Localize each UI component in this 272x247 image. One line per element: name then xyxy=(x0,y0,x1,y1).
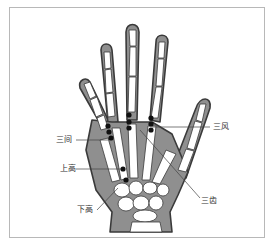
label-san-feng: 三风 xyxy=(213,122,229,132)
label-san-jian: 三间 xyxy=(56,135,72,145)
label-xia-gao: 下高 xyxy=(77,205,93,215)
label-san-chi: 三齿 xyxy=(201,196,217,206)
label-shang-gao: 上高 xyxy=(60,164,76,174)
hand-skeleton-illustration xyxy=(0,0,272,247)
